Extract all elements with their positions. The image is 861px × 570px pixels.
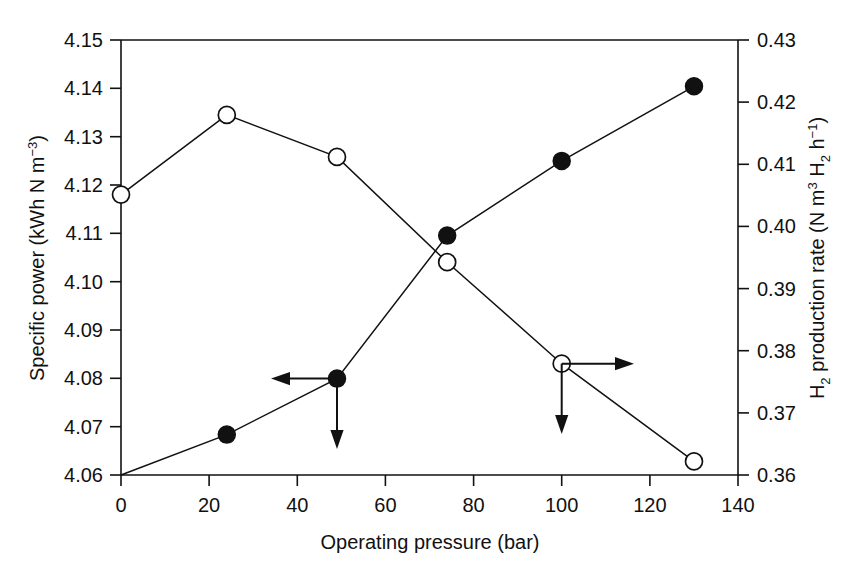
left-axis-title-superscript: −3 [25, 142, 40, 157]
left-tick-label: 4.06 [64, 464, 103, 486]
x-tick-label: 0 [115, 494, 126, 516]
x-tick-label: 80 [462, 494, 484, 516]
x-axis-title: Operating pressure (bar) [321, 531, 540, 553]
x-tick-label: 20 [198, 494, 220, 516]
left-axis-title: Specific power (kWh N m−3) [25, 135, 48, 381]
data-point-filled-circle [218, 426, 235, 443]
left-axis-title-tail: ) [26, 135, 48, 142]
right-axis-title-tail: ) [806, 117, 828, 124]
chart-figure: 4.15 4.14 4.13 4.12 4.11 4.10 4.09 4.08 … [0, 0, 861, 570]
right-axis-title-h: H [806, 385, 828, 399]
left-tick-label: 4.09 [64, 319, 103, 341]
right-axis-ticks [738, 40, 749, 475]
chart-plot-area: 4.15 4.14 4.13 4.12 4.11 4.10 4.09 4.08 … [0, 0, 861, 570]
right-tick-label: 0.42 [757, 91, 796, 113]
svg-text:Specific power (kWh N m−3): Specific power (kWh N m−3) [25, 135, 48, 381]
right-axis-tick-labels: 0.43 0.42 0.41 0.40 0.39 0.38 0.37 0.36 [757, 29, 796, 486]
data-point-filled-circle [686, 78, 703, 95]
right-axis-title-sub1: 2 [818, 377, 833, 384]
right-tick-label: 0.39 [757, 278, 796, 300]
right-axis-title-sup1: 3 [805, 182, 820, 189]
right-tick-label: 0.37 [757, 402, 796, 424]
left-tick-label: 4.08 [64, 367, 103, 389]
left-tick-label: 4.11 [66, 222, 103, 244]
left-axis-tick-labels: 4.15 4.14 4.13 4.12 4.11 4.10 4.09 4.08 … [64, 29, 103, 486]
left-tick-label: 4.12 [64, 174, 103, 196]
x-axis-tick-labels: 0 20 40 60 80 100 120 140 [115, 494, 754, 516]
right-axis-title: H2 production rate (N m3 H2 h−1) [805, 117, 833, 399]
right-axis-title-sup2: −1 [805, 124, 820, 139]
down-arrow-icon [330, 430, 343, 449]
data-point-open-circle [218, 106, 235, 123]
data-point-filled-circle [553, 152, 570, 169]
right-axis-title-h3: h [806, 138, 828, 155]
x-axis-ticks [121, 475, 738, 486]
x-tick-label: 140 [721, 494, 754, 516]
left-tick-label: 4.10 [64, 271, 103, 293]
left-axis-ticks [110, 40, 121, 475]
x-tick-label: 40 [286, 494, 308, 516]
data-point-open-circle [439, 254, 456, 271]
left-tick-label: 4.15 [64, 29, 103, 51]
right-axis-title-mid: production rate (N m [806, 190, 828, 378]
series-h2-production-rate [121, 78, 703, 475]
right-tick-label: 0.41 [757, 153, 796, 175]
svg-text:H2 production rate (N m3 H2 h−: H2 production rate (N m3 H2 h−1) [805, 117, 833, 399]
data-point-open-circle [329, 148, 346, 165]
series-h2-production-line [121, 86, 694, 475]
right-tick-label: 0.36 [757, 464, 796, 486]
x-tick-label: 60 [374, 494, 396, 516]
data-point-filled-circle [439, 227, 456, 244]
left-axis-title-main: Specific power (kWh N m [26, 157, 48, 382]
down-arrow-icon [555, 415, 568, 434]
right-tick-label: 0.40 [757, 215, 796, 237]
left-tick-label: 4.07 [64, 416, 103, 438]
right-axis-title-sub2: 2 [818, 155, 833, 162]
left-arrow-icon [271, 372, 290, 385]
right-axis-title-h2: H [806, 162, 828, 182]
x-tick-label: 120 [633, 494, 666, 516]
data-point-open-circle [113, 186, 130, 203]
data-point-open-circle [686, 453, 703, 470]
right-tick-label: 0.38 [757, 340, 796, 362]
right-tick-label: 0.43 [757, 29, 796, 51]
annotation-arrows [271, 357, 634, 449]
left-tick-label: 4.14 [64, 77, 103, 99]
x-tick-label: 100 [545, 494, 578, 516]
left-tick-label: 4.13 [64, 126, 103, 148]
right-arrow-icon [615, 357, 634, 370]
